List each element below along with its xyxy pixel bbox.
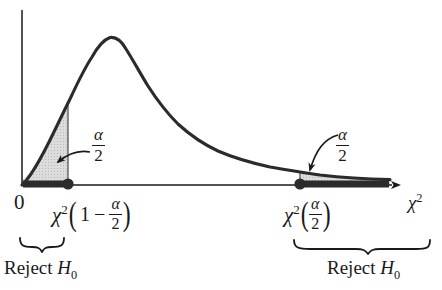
left-alpha-over-two-label: α 2 — [92, 126, 105, 165]
lower-crit-chi: χ2 — [52, 203, 68, 226]
left-reject-brace — [20, 238, 64, 252]
chi-square-density-curve — [22, 37, 390, 185]
upper-crit-paren-open: ( — [300, 199, 308, 230]
upper-crit-alpha-numerator: α — [309, 196, 321, 215]
lower-crit-one: 1 — [77, 204, 94, 224]
right-reject-subscript: 0 — [394, 268, 400, 282]
upper-critical-value-label: χ2 ( α 2 ) — [284, 196, 331, 233]
upper-crit-alpha-fraction: α 2 — [309, 196, 321, 233]
right-reject-text: Reject — [327, 257, 376, 278]
upper-crit-chi-symbol: χ — [284, 203, 293, 227]
left-alpha-fraction: α 2 — [92, 126, 105, 165]
upper-critical-value-dot — [294, 178, 305, 189]
lower-crit-minus: − — [94, 204, 109, 224]
chi-square-figure: 0 χ2 α 2 α 2 χ2 ( 1 − α 2 ) χ2 ( α 2 — [0, 0, 442, 290]
origin-label: 0 — [14, 192, 25, 213]
upper-crit-chi: χ2 — [284, 203, 300, 226]
figure-graphics — [0, 0, 442, 290]
left-reject-text: Reject — [4, 257, 53, 278]
left-reject-subscript: 0 — [71, 268, 77, 282]
right-alpha-arrow — [310, 135, 338, 170]
upper-crit-chi-exponent: 2 — [293, 202, 300, 217]
left-reject-label: Reject H0 — [4, 258, 77, 281]
lower-crit-alpha-denominator: 2 — [109, 215, 121, 233]
right-reject-label: Reject H0 — [327, 258, 400, 281]
lower-crit-paren-close: ) — [122, 199, 130, 230]
upper-crit-alpha-denominator: 2 — [309, 215, 321, 233]
right-alpha-fraction: α 2 — [336, 126, 349, 165]
right-reject-brace — [294, 240, 430, 254]
right-alpha-over-two-label: α 2 — [336, 126, 349, 165]
upper-crit-paren-close: ) — [322, 199, 330, 230]
lower-critical-value-dot — [62, 178, 73, 189]
left-reject-symbol: H — [57, 257, 71, 278]
x-axis-chi-exponent: 2 — [416, 191, 422, 205]
left-alpha-denominator: 2 — [92, 146, 105, 165]
left-alpha-numerator: α — [92, 126, 105, 146]
right-alpha-numerator: α — [336, 126, 349, 146]
right-reject-symbol: H — [380, 257, 394, 278]
lower-crit-paren-open: ( — [68, 199, 76, 230]
lower-crit-alpha-fraction: α 2 — [109, 196, 121, 233]
right-alpha-denominator: 2 — [336, 146, 349, 165]
lower-crit-chi-symbol: χ — [52, 203, 61, 227]
lower-critical-value-label: χ2 ( 1 − α 2 ) — [52, 196, 131, 233]
x-axis-label: χ2 — [408, 192, 423, 212]
lower-crit-alpha-numerator: α — [109, 196, 121, 215]
lower-crit-chi-exponent: 2 — [61, 202, 68, 217]
